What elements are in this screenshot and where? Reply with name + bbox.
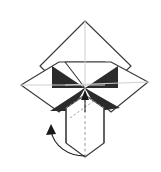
origami-diagram-svg (0, 0, 161, 172)
origami-figure (0, 0, 161, 172)
